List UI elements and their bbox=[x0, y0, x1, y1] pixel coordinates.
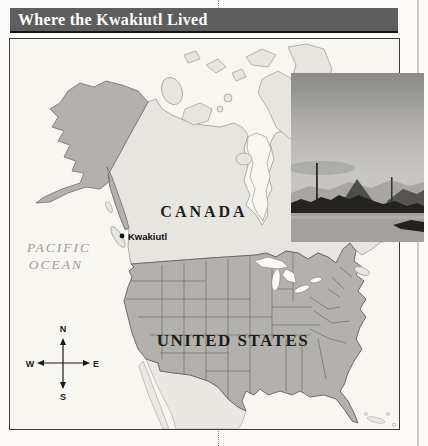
inset-photo bbox=[291, 73, 424, 242]
pacific-ocean-label-line2: OCEAN bbox=[29, 257, 83, 272]
pacific-ocean-label-line1: PACIFIC bbox=[26, 240, 91, 255]
figure-title: Where the Kwakiutl Lived bbox=[10, 11, 208, 29]
photo-cloud-band bbox=[291, 93, 424, 103]
photo-water-streak bbox=[291, 216, 424, 219]
compass-e: E bbox=[93, 359, 99, 369]
photo-totem-pole-left bbox=[316, 163, 318, 203]
crop-mark-top bbox=[218, 0, 219, 8]
compass-w: W bbox=[26, 359, 35, 369]
kwakiutl-label: Kwakiutl bbox=[128, 231, 167, 242]
kwakiutl-marker-dot bbox=[120, 234, 125, 239]
photo-cloud-band2 bbox=[291, 111, 424, 118]
crop-mark-bottom bbox=[218, 431, 219, 446]
united-states-label: UNITED STATES bbox=[157, 331, 310, 350]
canada-label: CANADA bbox=[160, 203, 247, 220]
coastal-landscape-photo bbox=[291, 73, 424, 242]
scanned-page: Where the Kwakiutl Lived bbox=[0, 0, 428, 446]
photo-totem-pole-right bbox=[391, 177, 393, 205]
figure-title-bar: Where the Kwakiutl Lived bbox=[10, 8, 398, 33]
compass-n: N bbox=[60, 324, 67, 334]
compass-s: S bbox=[60, 392, 66, 402]
